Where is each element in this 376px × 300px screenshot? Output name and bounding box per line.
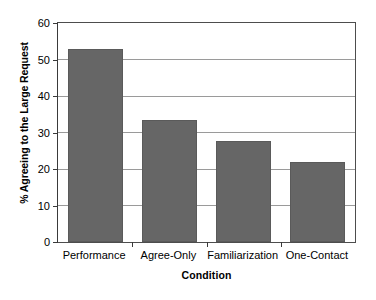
plot-area: 0102030405060: [57, 22, 356, 243]
y-axis-tick-mark: [53, 60, 58, 61]
bar: [216, 141, 271, 242]
y-axis-tick-group: 50: [58, 60, 59, 61]
x-axis-category-label: Performance: [57, 249, 131, 262]
x-axis-title: Condition: [57, 269, 356, 281]
y-axis-tick-label: 40: [38, 91, 50, 102]
x-axis-category-label: Familiarization: [206, 249, 280, 262]
y-axis-tick-group: 10: [58, 206, 59, 207]
y-axis-tick-label: 50: [38, 54, 50, 65]
x-axis-tick-mark: [281, 242, 282, 247]
y-axis-tick-label: 20: [38, 164, 50, 175]
y-axis-tick-label: 0: [44, 237, 50, 248]
y-axis-tick-mark: [53, 206, 58, 207]
y-axis-title: % Agreeing to the Large Request: [16, 1, 32, 245]
y-axis-tick-group: 60: [58, 23, 59, 24]
y-axis-tick-mark: [53, 96, 58, 97]
y-axis-tick-mark: [53, 169, 58, 170]
x-axis-category-label: Agree-Only: [131, 249, 205, 262]
bar: [68, 49, 123, 242]
y-axis-tick-mark: [53, 23, 58, 24]
y-axis-tick-label: 30: [38, 127, 50, 138]
bar-chart-figure: % Agreeing to the Large Request 01020304…: [0, 0, 376, 300]
y-axis-tick-mark: [53, 242, 58, 243]
y-axis-tick-mark: [53, 133, 58, 134]
y-axis-tick-group: 40: [58, 96, 59, 97]
bar: [142, 120, 197, 242]
y-axis-tick-group: 20: [58, 169, 59, 170]
x-axis-tick-mark: [132, 242, 133, 247]
y-axis-tick-group: 30: [58, 133, 59, 134]
y-axis-tick-label: 60: [38, 18, 50, 29]
y-axis-tick-group: 0: [58, 242, 59, 243]
x-axis-tick-mark: [207, 242, 208, 247]
bar: [290, 162, 345, 242]
x-axis-category-label: One-Contact: [280, 249, 354, 262]
y-axis-tick-label: 10: [38, 200, 50, 211]
